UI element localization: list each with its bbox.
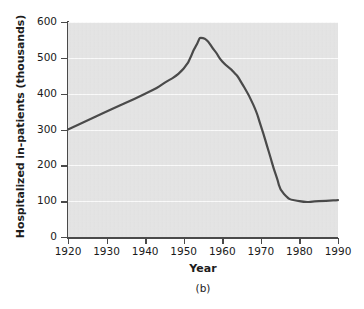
y-tick-label: 200 (17, 158, 57, 170)
x-tick-mark (145, 238, 146, 244)
x-tick-mark (338, 238, 339, 244)
x-tick-label: 1950 (164, 245, 204, 257)
line-path (68, 38, 338, 202)
x-tick-mark (107, 238, 108, 244)
x-tick-label: 1930 (87, 245, 127, 257)
x-tick-label: 1980 (279, 245, 319, 257)
panel-caption: (b) (68, 282, 338, 294)
x-tick-label: 1960 (202, 245, 242, 257)
y-tick-mark (61, 165, 68, 166)
y-tick-label: 500 (17, 51, 57, 63)
x-tick-mark (222, 238, 223, 244)
x-tick-mark (261, 238, 262, 244)
y-tick-label: 600 (17, 15, 57, 27)
y-tick-mark (61, 58, 68, 59)
x-tick-label: 1970 (241, 245, 281, 257)
y-tick-label: 100 (17, 194, 57, 206)
y-tick-label: 300 (17, 123, 57, 135)
x-tick-mark (68, 238, 69, 244)
y-tick-mark (61, 22, 68, 23)
x-axis-title: Year (68, 262, 338, 275)
y-tick-mark (61, 201, 68, 202)
y-tick-mark (61, 94, 68, 95)
chart-figure: Hospitalized in-patients (thousands) 010… (0, 0, 364, 309)
y-tick-label: 400 (17, 87, 57, 99)
plot-area (68, 22, 338, 237)
x-tick-mark (184, 238, 185, 244)
x-tick-mark (299, 238, 300, 244)
y-tick-mark (61, 237, 68, 238)
data-series-line (68, 22, 338, 237)
x-tick-label: 1920 (48, 245, 88, 257)
x-tick-label: 1940 (125, 245, 165, 257)
y-tick-label: 0 (17, 230, 57, 242)
x-tick-label: 1990 (318, 245, 358, 257)
